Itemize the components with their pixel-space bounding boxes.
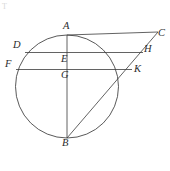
segment-ac xyxy=(67,32,158,35)
point-label-h: H xyxy=(144,44,152,55)
point-label-e: E xyxy=(61,54,67,65)
point-label-g: G xyxy=(61,70,69,81)
point-label-f: F xyxy=(5,59,11,70)
geometry-canvas xyxy=(0,0,170,171)
point-label-b: B xyxy=(62,138,68,149)
point-label-d: D xyxy=(13,40,21,51)
point-label-c: C xyxy=(158,28,165,39)
point-label-a: A xyxy=(63,21,69,32)
point-label-k: K xyxy=(134,64,141,75)
geometry-figure: T A C D E F G H K B xyxy=(0,0,170,171)
